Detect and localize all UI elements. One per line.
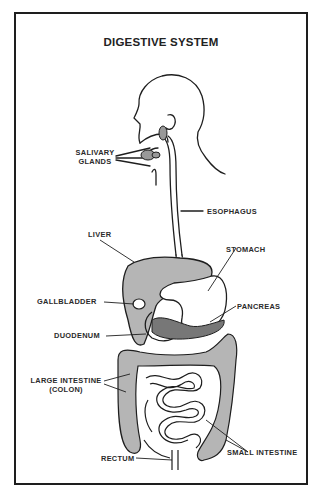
label-salivary-line-2: GLANDS — [70, 157, 120, 166]
esophagus — [162, 136, 176, 255]
large-intestine — [118, 334, 237, 461]
label-small-intestine: SMALL INTESTINE — [227, 448, 297, 457]
salivary-glands — [141, 126, 167, 160]
label-stomach: STOMACH — [226, 245, 265, 254]
label-salivary-glands: SALIVARY GLANDS — [70, 148, 120, 166]
label-large-intestine-line-1: LARGE INTESTINE — [26, 376, 106, 385]
gallbladder — [133, 299, 145, 309]
ear — [166, 115, 175, 130]
small-intestine — [144, 373, 205, 458]
label-rectum: RECTUM — [101, 454, 134, 463]
label-large-intestine-line-2: (COLON) — [26, 385, 106, 394]
label-salivary-line-1: SALIVARY — [70, 148, 120, 157]
label-duodenum: DUODENUM — [54, 331, 100, 340]
label-liver: LIVER — [88, 230, 111, 239]
label-gallbladder: GALLBLADDER — [37, 297, 97, 306]
label-large-intestine: LARGE INTESTINE (COLON) — [26, 376, 106, 394]
label-esophagus: ESOPHAGUS — [207, 207, 257, 216]
rectum — [172, 450, 178, 470]
digestive-system-illustration — [0, 0, 322, 497]
label-pancreas: PANCREAS — [237, 302, 280, 311]
